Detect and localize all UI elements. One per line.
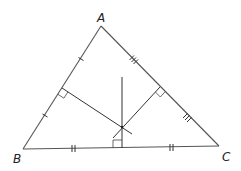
right-angle-bc bbox=[113, 140, 122, 148]
tick-ac-lower bbox=[183, 114, 192, 123]
label-c: C bbox=[222, 150, 231, 164]
tick-marks bbox=[43, 56, 192, 153]
label-a: A bbox=[96, 11, 105, 25]
right-angle-ac bbox=[155, 92, 165, 97]
triangle bbox=[23, 26, 219, 149]
right-angle-ab bbox=[58, 92, 68, 98]
circumcenter-point bbox=[121, 126, 123, 128]
label-b: B bbox=[13, 152, 21, 166]
perpendicular-bisectors bbox=[62, 77, 160, 148]
edge-ac bbox=[101, 26, 219, 146]
edge-ab bbox=[23, 26, 101, 149]
bisector-ac bbox=[113, 87, 160, 138]
tick-bc-right bbox=[170, 144, 173, 151]
triangle-diagram: A B C bbox=[0, 0, 241, 171]
edge-bc bbox=[23, 146, 219, 149]
